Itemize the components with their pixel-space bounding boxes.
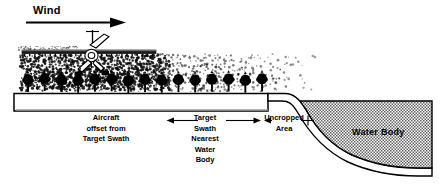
target-swath-line-3: Nearest — [185, 134, 225, 145]
water-body-label: Water Body — [352, 127, 405, 138]
uncropped-area-label: Uncropped Area — [263, 113, 305, 134]
aircraft-offset-line-1: Aircraft — [60, 113, 152, 124]
target-swath-label: Target Swath Nearest Water Body — [185, 113, 225, 166]
uncropped-area-line-1: Uncropped — [263, 113, 305, 124]
aircraft-offset-label: Aircraft offset from Target Swath — [60, 113, 152, 145]
wind-label: Wind — [33, 4, 61, 17]
target-swath-line-2: Swath — [185, 124, 225, 135]
field-ground-block — [14, 94, 268, 112]
aircraft-offset-line-2: offset from — [60, 124, 152, 135]
uncropped-area-line-2: Area — [263, 124, 305, 135]
aircraft-offset-line-3: Target Swath — [60, 134, 152, 145]
drift-diagram-figure: Wind Aircraft offset from Target Swath T… — [0, 0, 442, 196]
diagram-canvas — [0, 0, 442, 196]
target-swath-line-4: Water — [185, 145, 225, 156]
target-swath-line-5: Body — [185, 155, 225, 166]
target-swath-line-1: Target — [185, 113, 225, 124]
wind-direction-arrow — [26, 18, 126, 28]
